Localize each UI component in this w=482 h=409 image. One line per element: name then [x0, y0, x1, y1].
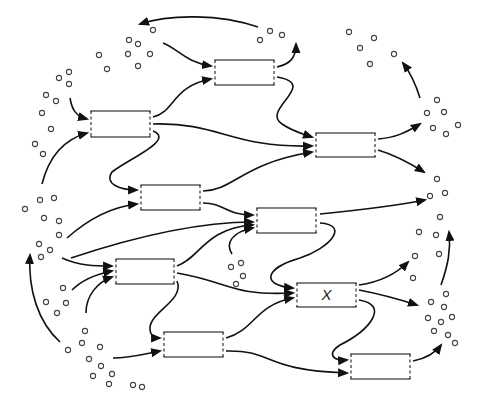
- molecule-circle-icon: [455, 122, 460, 127]
- molecule-circle-icon: [441, 109, 446, 114]
- molecule-circle-icon: [53, 98, 58, 103]
- molecule-circle-icon: [150, 27, 155, 32]
- molecule-circle-icon: [43, 92, 48, 97]
- molecule-circle-icon: [54, 310, 59, 315]
- edge-pool-left-top-to-B: [70, 98, 87, 119]
- molecule-circle-icon: [434, 176, 439, 181]
- edge-pool-left-mid-to-B: [42, 133, 87, 184]
- edge-G-to-X: [226, 298, 293, 338]
- molecule-circle-icon: [39, 110, 44, 115]
- molecule-circle-icon: [32, 141, 37, 146]
- node-box-F: [116, 259, 174, 284]
- molecule-circle-icon: [391, 51, 396, 56]
- molecule-circle-icon: [436, 251, 441, 256]
- molecule-circle-icon: [431, 328, 436, 333]
- molecule-circle-icon: [125, 51, 130, 56]
- node-rect: [257, 208, 316, 233]
- molecule-circle-icon: [437, 214, 442, 219]
- node-box-G: [164, 332, 223, 357]
- node-box-H: [351, 354, 410, 379]
- molecule-circle-icon: [449, 314, 454, 319]
- molecule-circle-icon: [433, 232, 438, 237]
- molecule-circle-icon: [441, 304, 446, 309]
- molecule-circle-icon: [135, 63, 140, 68]
- molecule-circle-icon: [36, 241, 41, 246]
- regulatory-network-diagram: X: [0, 0, 482, 409]
- molecule-circle-icon: [48, 126, 53, 131]
- edge-C-to-pool-right-upper: [378, 124, 420, 139]
- molecule-circle-icon: [416, 229, 421, 234]
- edge-B-to-A: [153, 79, 211, 117]
- node-rect: [141, 185, 200, 210]
- edge-A-to-C: [277, 77, 312, 137]
- molecule-circle-icon: [346, 29, 351, 34]
- molecule-circle-icon: [38, 254, 43, 259]
- molecule-circle-icon: [41, 215, 46, 220]
- edge-G-to-H: [226, 351, 347, 373]
- edge-pool-right-bottom-to-pool-right-lower-far: [441, 232, 450, 285]
- edge-pool-bottom-left-to-G: [113, 351, 160, 358]
- molecule-circle-icon: [60, 285, 65, 290]
- edge-D-to-C: [203, 152, 312, 191]
- edge-F-to-G: [150, 281, 178, 338]
- edge-E-to-pool-right-mid: [320, 200, 425, 214]
- molecule-circle-icon: [79, 340, 84, 345]
- molecule-circle-icon: [443, 131, 448, 136]
- edge-pool-top-left-to-A: [163, 43, 211, 66]
- molecule-circle-icon: [434, 97, 439, 102]
- node-box-B: [91, 111, 150, 137]
- molecule-circle-icon: [357, 45, 362, 50]
- molecule-circle-icon: [96, 52, 101, 57]
- molecule-circle-icon: [56, 232, 61, 237]
- edge-C-to-pool-right-mid: [378, 150, 424, 172]
- edge-pool-right-upper-to-pool-top-right-far: [403, 63, 420, 98]
- node-rect: [351, 354, 410, 379]
- node-label: X: [320, 286, 332, 303]
- node-box-A: [215, 60, 274, 85]
- molecule-circle-icon: [90, 373, 95, 378]
- molecule-circle-icon: [279, 32, 284, 37]
- edge-H-to-pool-right-bottom: [413, 345, 441, 361]
- node-box-X: X: [297, 283, 356, 307]
- molecule-circle-icon: [135, 41, 140, 46]
- node-box-E: [257, 208, 316, 233]
- edge-pool-bottom-left-to-pool-left-lower: [30, 255, 60, 342]
- edge-pool-left-lower-to-F: [62, 258, 112, 266]
- molecule-circle-icon: [98, 363, 103, 368]
- molecule-circle-icon: [443, 291, 448, 296]
- node-box-D: [141, 185, 200, 210]
- node-box-C: [316, 133, 375, 157]
- molecule-circle-icon: [238, 260, 243, 265]
- molecule-circle-icon: [51, 195, 56, 200]
- molecule-circle-icon: [257, 37, 262, 42]
- molecule-circle-icon: [109, 371, 114, 376]
- molecule-circle-icon: [425, 315, 430, 320]
- node-rect: [215, 60, 274, 85]
- molecule-circle-icon: [438, 319, 443, 324]
- molecule-circle-icon: [410, 275, 415, 280]
- molecule-circle-icon: [228, 264, 233, 269]
- edge-pool-bottom-left-to-F: [86, 277, 112, 313]
- edge-pool-top-right-to-pool-top-left: [140, 17, 258, 27]
- molecule-circle-icon: [452, 340, 457, 345]
- molecule-circle-icon: [65, 347, 70, 352]
- molecule-circle-icon: [130, 382, 135, 387]
- edge-X-to-pool-right-lower: [359, 262, 408, 285]
- molecule-circle-icon: [97, 344, 102, 349]
- molecule-circle-icon: [267, 28, 272, 33]
- molecule-circle-icon: [428, 299, 433, 304]
- molecule-circle-icon: [412, 253, 417, 258]
- molecule-circle-icon: [37, 197, 42, 202]
- molecule-circle-icon: [63, 300, 68, 305]
- molecule-circle-icon: [66, 69, 71, 74]
- molecule-circle-icon: [430, 125, 435, 130]
- molecule-circle-icon: [442, 190, 447, 195]
- molecule-circle-icon: [240, 273, 245, 278]
- edge-D-to-E: [203, 203, 253, 215]
- molecule-circle-icon: [147, 51, 152, 56]
- edge-pool-left-lower-to-E: [71, 222, 253, 258]
- edge-pool-center-small-to-E: [229, 228, 253, 254]
- molecule-circle-icon: [56, 75, 61, 80]
- node-rect: [116, 259, 174, 284]
- molecule-circle-icon: [126, 37, 131, 42]
